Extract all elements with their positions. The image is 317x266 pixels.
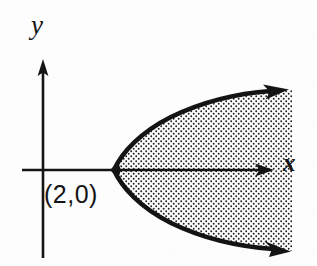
vertex-coordinate-label: (2,0) xyxy=(44,180,98,209)
y-axis-label: y xyxy=(31,12,43,39)
parabola-region-figure: y x (2,0) xyxy=(0,0,317,266)
x-axis-label: x xyxy=(283,150,296,175)
y-axis xyxy=(38,59,49,258)
figure-canvas xyxy=(0,0,317,266)
